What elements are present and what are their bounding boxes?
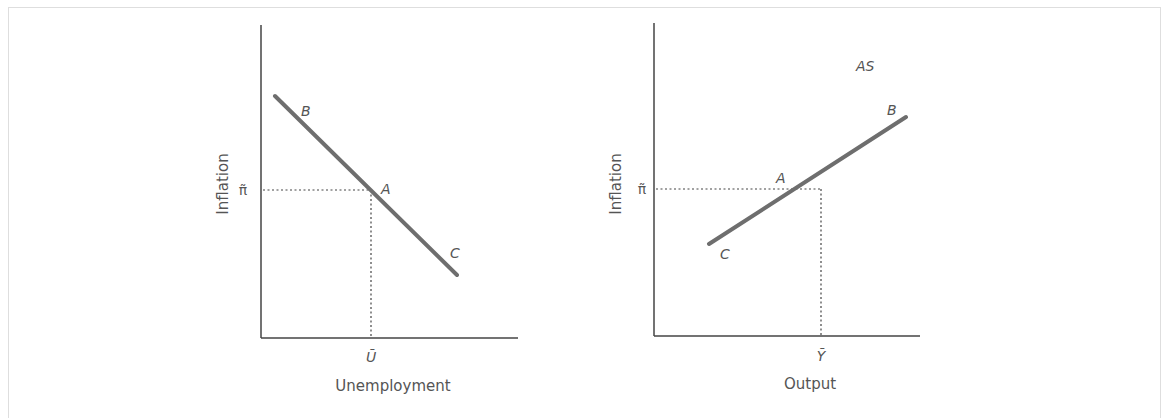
point-label-b: B: [887, 102, 897, 118]
x-axis-label: Output: [784, 375, 836, 393]
phillips-panel: B A C π̃ Ū Inflation Unemployment: [214, 25, 518, 395]
figure-canvas: B A C π̃ Ū Inflation Unemployment AS B A…: [0, 0, 1170, 420]
x-tick-u-bar: Ū: [366, 349, 376, 365]
point-label-b: B: [301, 103, 311, 119]
phillips-curve: [275, 96, 457, 275]
y-tick-pi-tilde: π̃: [638, 181, 647, 197]
curve-label-as: AS: [855, 58, 875, 74]
as-curve: [709, 117, 906, 244]
point-label-c: C: [450, 245, 460, 261]
point-label-c: C: [720, 246, 730, 262]
x-axis-label: Unemployment: [335, 377, 450, 395]
point-label-a: A: [380, 181, 391, 197]
y-axis-label: Inflation: [607, 153, 625, 214]
y-axis-label: Inflation: [214, 153, 232, 214]
as-panel: AS B A C π̃ Ȳ Inflation Output: [607, 23, 920, 393]
y-tick-pi-tilde: π̃: [239, 182, 248, 198]
x-tick-y-bar: Ȳ: [817, 348, 827, 364]
point-label-a: A: [775, 170, 786, 186]
